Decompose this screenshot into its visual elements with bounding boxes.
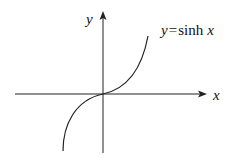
y-axis-label: y — [84, 11, 93, 27]
curve-label-x: x — [206, 22, 214, 38]
curve-label-y: y — [159, 22, 168, 38]
curve-label-func: sinh — [178, 22, 204, 38]
curve-label-eq: = — [169, 22, 177, 38]
curve-label: y=sinhx — [159, 22, 214, 38]
sinh-graph: y x y=sinhx — [0, 0, 235, 165]
x-axis-label: x — [212, 87, 220, 103]
